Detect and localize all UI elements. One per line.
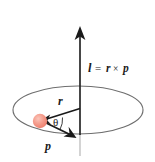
cross-product-icon: ×	[113, 64, 118, 74]
angular-momentum-label-r: r	[106, 62, 111, 74]
momentum-vector-label: p	[44, 139, 51, 153]
theta-angle-label: θ	[53, 116, 58, 128]
theta-angle-arc	[60, 118, 63, 130]
diagram-canvas: l = r × p r p θ	[0, 0, 155, 162]
angular-momentum-label-p: p	[122, 62, 129, 75]
orbiting-particle-dot	[33, 114, 47, 128]
angular-momentum-label-l: l	[88, 61, 92, 75]
radius-vector-label: r	[58, 94, 63, 108]
angular-momentum-figure: l = r × p r p θ	[0, 0, 155, 162]
angular-momentum-label-equals: =	[95, 62, 101, 74]
